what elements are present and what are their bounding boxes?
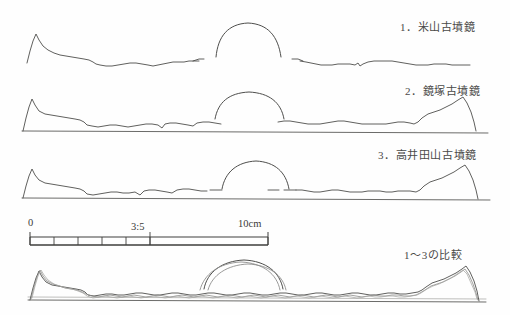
scale-bar-top-rule bbox=[30, 232, 268, 245]
profile-2-left-outline bbox=[23, 99, 221, 131]
profile-4-baseline-a bbox=[28, 300, 486, 302]
scale-bar-group bbox=[30, 232, 268, 245]
profile-2-baseline bbox=[22, 131, 488, 133]
profile-3-group bbox=[22, 161, 490, 200]
profile-3-left-outline bbox=[23, 169, 207, 198]
profile-3-baseline bbox=[22, 198, 490, 200]
scale-end-label: 10cm bbox=[238, 219, 261, 230]
profile-1-label: 1．米山古墳鏡 bbox=[400, 22, 476, 33]
profile-4-label: 1〜3の比較 bbox=[404, 250, 463, 261]
profile-1-dome-arc bbox=[216, 23, 281, 57]
profile-2-label: 2．鏡塚古墳鏡 bbox=[405, 86, 481, 97]
profile-4-group bbox=[28, 260, 486, 302]
profile-3-label: 3．高井田山古墳鏡 bbox=[378, 150, 477, 161]
scale-bar-outline bbox=[30, 237, 268, 245]
profile-1-right-outline bbox=[300, 61, 470, 66]
profile-1-right-ledge bbox=[292, 59, 303, 61]
profile-2-right-outline bbox=[278, 97, 476, 131]
profile-4-outline-c bbox=[32, 270, 477, 299]
scale-ratio-label: 3:5 bbox=[131, 222, 144, 233]
profile-3-dome-arc bbox=[222, 161, 289, 189]
profile-1-left-outline bbox=[27, 34, 199, 66]
figure-root: 1．米山古墳鏡 2．鏡塚古墳鏡 3．高井田山古墳鏡 1〜3の比較 0 3:5 1… bbox=[0, 0, 510, 315]
profile-2-dome-arc bbox=[215, 92, 284, 119]
scale-start-label: 0 bbox=[28, 218, 33, 229]
profile-2-group bbox=[22, 92, 488, 133]
profile-3-right-outline bbox=[296, 165, 478, 199]
